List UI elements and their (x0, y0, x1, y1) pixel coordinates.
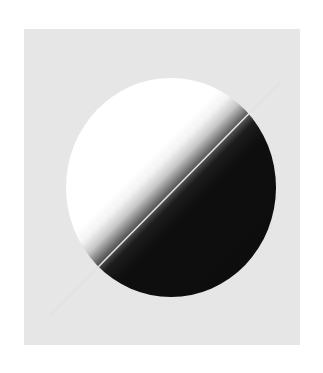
gray-panel (24, 29, 300, 345)
gradient-circle (66, 78, 276, 297)
